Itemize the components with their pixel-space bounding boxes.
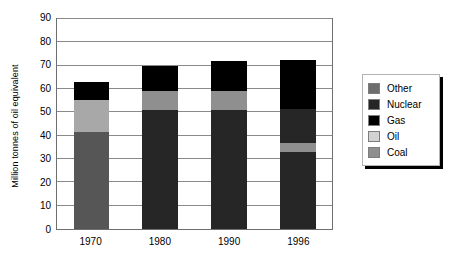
plot-area — [56, 18, 333, 230]
bar-segment[interactable] — [142, 91, 178, 110]
bar-segment[interactable] — [142, 110, 178, 229]
legend-swatch — [368, 99, 380, 110]
bar-group — [263, 19, 332, 229]
legend-label: Nuclear — [387, 99, 421, 110]
y-axis-tick: 20 — [40, 178, 51, 188]
bar-segment[interactable] — [280, 109, 316, 143]
legend-item[interactable]: Nuclear — [368, 96, 435, 112]
stacked-bar[interactable] — [211, 61, 247, 229]
bar-segment[interactable] — [211, 61, 247, 91]
x-axis-tick: 1996 — [264, 236, 333, 247]
y-axis-tick: 0 — [45, 225, 51, 235]
bar-group — [126, 19, 195, 229]
bar-group — [57, 19, 126, 229]
bar-segment[interactable] — [142, 66, 178, 92]
legend-swatch — [368, 131, 380, 142]
bar-group — [195, 19, 264, 229]
legend-label: Oil — [387, 131, 399, 142]
legend-swatch — [368, 83, 380, 94]
stacked-bar[interactable] — [74, 82, 110, 229]
legend-item[interactable]: Oil — [368, 128, 435, 144]
y-axis-tick: 30 — [40, 154, 51, 164]
bar-segment[interactable] — [211, 91, 247, 110]
legend-item[interactable]: Gas — [368, 112, 435, 128]
y-axis-tick: 40 — [40, 131, 51, 141]
stacked-bar[interactable] — [142, 66, 178, 229]
y-axis-title: Million tonnes of oil equivalent — [6, 28, 24, 224]
bar-series-container — [57, 19, 332, 229]
bar-segment[interactable] — [280, 152, 316, 229]
bar-segment[interactable] — [74, 82, 110, 100]
x-axis-tick-labels: 1970198019901996 — [56, 236, 333, 247]
legend-swatch — [368, 147, 380, 158]
bar-segment[interactable] — [280, 143, 316, 152]
bar-segment[interactable] — [211, 110, 247, 229]
x-axis-tick: 1970 — [56, 236, 125, 247]
chart-legend: OtherNuclearGasOilCoal — [362, 74, 440, 166]
y-axis-tick: 80 — [40, 37, 51, 47]
y-axis-tick: 50 — [40, 107, 51, 117]
x-axis-tick: 1990 — [195, 236, 264, 247]
legend-label: Coal — [387, 147, 408, 158]
y-axis-tick-labels: 9080706050403020100 — [26, 14, 51, 234]
y-axis-tick: 70 — [40, 60, 51, 70]
legend-item[interactable]: Other — [368, 80, 435, 96]
legend-item[interactable]: Coal — [368, 144, 435, 160]
legend-swatch — [368, 115, 380, 126]
stacked-bar[interactable] — [280, 60, 316, 229]
y-axis-tick: 10 — [40, 201, 51, 211]
legend-label: Other — [387, 83, 412, 94]
legend-label: Gas — [387, 115, 405, 126]
bar-segment[interactable] — [74, 132, 110, 229]
y-axis-tick: 90 — [40, 13, 51, 23]
y-axis-tick: 60 — [40, 84, 51, 94]
chart-figure: Million tonnes of oil equivalent 9080706… — [0, 0, 452, 276]
bar-segment[interactable] — [74, 100, 110, 133]
x-axis-tick: 1980 — [125, 236, 194, 247]
bar-segment[interactable] — [280, 60, 316, 109]
